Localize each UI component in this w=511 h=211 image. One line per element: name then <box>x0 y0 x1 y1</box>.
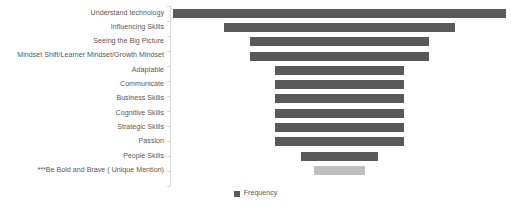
chart-row: Passion <box>0 135 511 149</box>
category-label: Strategic Skills <box>0 124 168 131</box>
bar-influencing-skills[interactable] <box>224 23 455 32</box>
bar-seeing-the-big-picture[interactable] <box>250 37 429 46</box>
axis-tick <box>167 126 170 127</box>
axis-tick <box>167 141 170 142</box>
chart-row: Mindset Shift/Learner Mindset/Growth Min… <box>0 49 511 63</box>
category-label: ***Be Bold and Brave ( Unique Mention) <box>0 167 168 174</box>
legend-label-frequency: Frequency <box>244 190 278 197</box>
category-label: Seeing the Big Picture <box>0 38 168 45</box>
axis-tick <box>167 36 170 37</box>
bar-business-skills[interactable] <box>275 94 403 103</box>
chart-row: Strategic Skills <box>0 120 511 134</box>
axis-tick <box>167 186 170 187</box>
funnel-bar-chart: Understand technology Influencing Skills… <box>0 0 511 211</box>
bar-communicate[interactable] <box>275 80 403 89</box>
category-label: Communicate <box>0 81 168 88</box>
bar-track <box>168 92 511 106</box>
category-label: Cognitive Skills <box>0 110 168 117</box>
bar-strategic-skills[interactable] <box>275 123 403 132</box>
chart-row: Communicate <box>0 77 511 91</box>
axis-tick <box>167 81 170 82</box>
bar-track <box>168 49 511 63</box>
plot-area: Understand technology Influencing Skills… <box>0 6 511 186</box>
axis-tick <box>167 156 170 157</box>
bar-track <box>168 149 511 163</box>
bar-be-bold-and-brave[interactable] <box>314 166 365 175</box>
chart-legend: Frequency <box>0 190 511 197</box>
bar-people-skills[interactable] <box>301 152 378 161</box>
bar-track <box>168 6 511 20</box>
category-label: Influencing Skills <box>0 24 168 31</box>
axis-tick <box>167 6 170 7</box>
bar-understand-technology[interactable] <box>173 9 506 18</box>
axis-tick <box>167 111 170 112</box>
axis-tick <box>167 66 170 67</box>
bar-cognitive-skills[interactable] <box>275 109 403 118</box>
bar-mindset-shift[interactable] <box>250 52 429 61</box>
category-label: Adaptable <box>0 67 168 74</box>
chart-row: ***Be Bold and Brave ( Unique Mention) <box>0 163 511 177</box>
chart-row: People Skills <box>0 149 511 163</box>
bar-track <box>168 135 511 149</box>
bar-track <box>168 20 511 34</box>
bar-track <box>168 35 511 49</box>
category-label: Mindset Shift/Learner Mindset/Growth Min… <box>0 52 168 59</box>
category-label: Passion <box>0 138 168 145</box>
legend-swatch-frequency <box>234 191 240 197</box>
bar-track <box>168 163 511 177</box>
chart-row: Influencing Skills <box>0 20 511 34</box>
chart-row: Seeing the Big Picture <box>0 35 511 49</box>
chart-row: Cognitive Skills <box>0 106 511 120</box>
chart-row: Business Skills <box>0 92 511 106</box>
category-label: Business Skills <box>0 95 168 102</box>
bar-track <box>168 63 511 77</box>
bar-track <box>168 120 511 134</box>
axis-tick <box>167 171 170 172</box>
category-label: People Skills <box>0 153 168 160</box>
bar-adaptable[interactable] <box>275 66 403 75</box>
bar-track <box>168 77 511 91</box>
chart-row: Adaptable <box>0 63 511 77</box>
chart-row: Understand technology <box>0 6 511 20</box>
axis-tick <box>167 21 170 22</box>
bar-passion[interactable] <box>275 137 403 146</box>
category-label: Understand technology <box>0 10 168 17</box>
bar-track <box>168 106 511 120</box>
axis-tick <box>167 96 170 97</box>
axis-tick <box>167 51 170 52</box>
